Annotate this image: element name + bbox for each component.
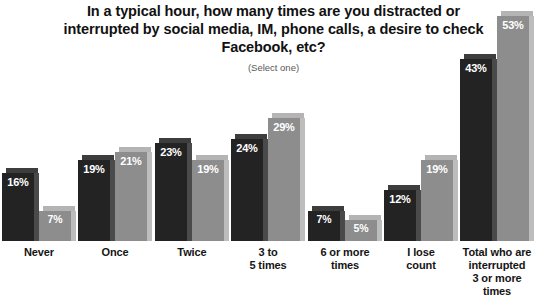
category-label-line: 3 or more xyxy=(454,272,540,285)
bar-face xyxy=(460,59,492,241)
category-label: Total who areinterrupted3 or moretimes xyxy=(454,246,540,298)
bar-value-label: 19% xyxy=(78,163,110,175)
bar-value-label: 43% xyxy=(460,62,492,74)
bar-light[interactable]: 7% xyxy=(39,211,71,241)
bar-light[interactable]: 19% xyxy=(192,160,224,241)
bar-value-label: 21% xyxy=(115,155,147,167)
bar-side-face xyxy=(529,16,534,241)
category-label-line: Total who are xyxy=(454,246,540,259)
category-label: 3 to5 times xyxy=(225,246,311,272)
bar-light[interactable]: 5% xyxy=(345,220,377,241)
bar-group: 23%19% xyxy=(155,0,229,241)
category-label: 6 or moretimes xyxy=(302,246,388,272)
bar-dark[interactable]: 43% xyxy=(460,59,492,241)
bar-face xyxy=(497,16,529,241)
bar-value-label: 29% xyxy=(268,121,300,133)
bar-face xyxy=(268,118,300,241)
bar-dark[interactable]: 7% xyxy=(308,211,340,241)
category-label-line: times xyxy=(302,259,388,272)
bar-group: 16%7% xyxy=(2,0,76,241)
bar-group: 43%53% xyxy=(460,0,534,241)
bar-dark[interactable]: 23% xyxy=(155,143,187,241)
category-label-line: Twice xyxy=(149,246,235,259)
bar-light[interactable]: 29% xyxy=(268,118,300,241)
category-label: Twice xyxy=(149,246,235,259)
bar-group: 12%19% xyxy=(384,0,458,241)
bar-side-face xyxy=(300,118,305,241)
bar-side-face xyxy=(71,211,76,241)
category-label: Never xyxy=(0,246,82,259)
bar-side-face xyxy=(224,160,229,241)
bar-side-face xyxy=(453,160,458,241)
category-label-line: times xyxy=(454,285,540,298)
bar-value-label: 7% xyxy=(308,213,340,225)
bar-face xyxy=(231,139,263,241)
category-label-line: Never xyxy=(0,246,82,259)
bar-dark[interactable]: 19% xyxy=(78,160,110,241)
bar-group: 24%29% xyxy=(231,0,305,241)
bar-value-label: 12% xyxy=(384,193,416,205)
category-label-line: 5 times xyxy=(225,259,311,272)
category-label-line: Once xyxy=(72,246,158,259)
bar-dark[interactable]: 12% xyxy=(384,190,416,241)
category-label-line: 3 to xyxy=(225,246,311,259)
bar-value-label: 16% xyxy=(2,176,34,188)
bar-group: 7%5% xyxy=(308,0,382,241)
category-label: Once xyxy=(72,246,158,259)
bar-light[interactable]: 19% xyxy=(421,160,453,241)
bar-value-label: 53% xyxy=(497,19,529,31)
bar-side-face xyxy=(377,220,382,241)
bar-chart: In a typical hour, how many times are yo… xyxy=(0,0,547,299)
bar-group: 19%21% xyxy=(78,0,152,241)
plot-area: 16%7%19%21%23%19%24%29%7%5%12%19%43%53% xyxy=(0,0,547,241)
bar-dark[interactable]: 16% xyxy=(2,173,34,241)
bar-side-face xyxy=(147,152,152,241)
category-label-line: count xyxy=(378,259,464,272)
bar-dark[interactable]: 24% xyxy=(231,139,263,241)
category-label-line: 6 or more xyxy=(302,246,388,259)
category-label: I losecount xyxy=(378,246,464,272)
bar-light[interactable]: 21% xyxy=(115,152,147,241)
bar-light[interactable]: 53% xyxy=(497,16,529,241)
bar-value-label: 5% xyxy=(345,222,377,234)
category-label-line: I lose xyxy=(378,246,464,259)
bar-value-label: 23% xyxy=(155,146,187,158)
category-label-line: interrupted xyxy=(454,259,540,272)
bar-value-label: 19% xyxy=(192,163,224,175)
bar-value-label: 24% xyxy=(231,142,263,154)
bar-value-label: 7% xyxy=(39,213,71,225)
bar-value-label: 19% xyxy=(421,163,453,175)
